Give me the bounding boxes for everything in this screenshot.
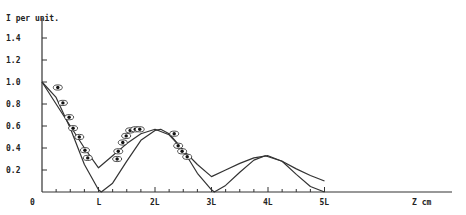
intensity-chart: I per unit. Z cm 0.20.40.60.81.01.21.4 0… bbox=[0, 0, 466, 215]
data-point-marker bbox=[80, 148, 89, 153]
data-point-marker bbox=[135, 127, 144, 132]
data-point-marker bbox=[114, 149, 123, 154]
y-tick-label: 0.2 bbox=[6, 166, 21, 175]
x-ticks: 0L2L3L4L5L bbox=[30, 187, 329, 207]
y-tick-label: 0.6 bbox=[6, 122, 21, 131]
data-point-marker bbox=[174, 143, 183, 148]
lower-theory-curve bbox=[42, 82, 325, 192]
x-tick-label: 4L bbox=[263, 198, 273, 207]
y-ticks: 0.20.40.60.81.01.21.4 bbox=[6, 34, 47, 175]
data-point-marker bbox=[83, 155, 92, 160]
data-point-marker bbox=[65, 115, 74, 120]
x-tick-label: L bbox=[97, 198, 102, 207]
data-point-marker bbox=[170, 131, 179, 136]
y-tick-label: 1.2 bbox=[6, 56, 21, 65]
data-point-marker bbox=[118, 140, 127, 145]
data-point-marker bbox=[113, 156, 122, 161]
data-point-marker bbox=[58, 100, 67, 105]
y-tick-label: 0.4 bbox=[6, 144, 21, 153]
data-markers bbox=[53, 85, 191, 162]
x-tick-label: 2L bbox=[150, 198, 160, 207]
data-point-marker bbox=[53, 85, 62, 90]
axes: I per unit. Z cm bbox=[6, 13, 452, 207]
y-tick-label: 1.4 bbox=[6, 34, 21, 43]
data-point-marker bbox=[75, 134, 84, 139]
y-tick-label: 0.8 bbox=[6, 100, 21, 109]
x-axis-label: Z cm bbox=[412, 198, 431, 207]
data-point-marker bbox=[122, 133, 131, 138]
x-tick-label: 5L bbox=[320, 198, 330, 207]
data-point-marker bbox=[69, 126, 78, 131]
upper-envelope-curve bbox=[42, 82, 325, 181]
curves bbox=[42, 82, 325, 192]
data-point-marker bbox=[178, 149, 187, 154]
y-tick-label: 1.0 bbox=[6, 78, 21, 87]
y-axis-label: I per unit. bbox=[6, 13, 59, 23]
x-tick-label: 3L bbox=[207, 198, 217, 207]
x-tick-label: 0 bbox=[30, 198, 35, 207]
data-point-marker bbox=[183, 154, 192, 159]
